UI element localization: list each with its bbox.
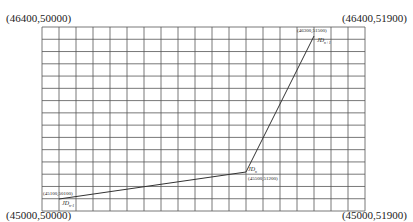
corner-label-top-left: (46400,50000) — [6, 12, 71, 24]
point-coord-n-plus-1: (46300,51500) — [297, 28, 327, 33]
point-coord-n: (45500,51200) — [248, 176, 278, 181]
point-label-n: JDn — [248, 166, 257, 174]
corner-label-bottom-left: (45000,50000) — [6, 209, 71, 221]
point-label-n-plus-1: JDn+1 — [317, 37, 331, 45]
point-label-n-minus-1: JDn-1 — [62, 200, 74, 208]
point-coord-n-minus-1: (45100,50100) — [43, 191, 73, 196]
corner-label-bottom-right: (45000,51900) — [342, 209, 407, 221]
grid-diagram: (46400,50000) (46400,51900) (45000,50000… — [0, 0, 413, 222]
grid-lines — [0, 0, 413, 222]
corner-label-top-right: (46400,51900) — [342, 12, 407, 24]
